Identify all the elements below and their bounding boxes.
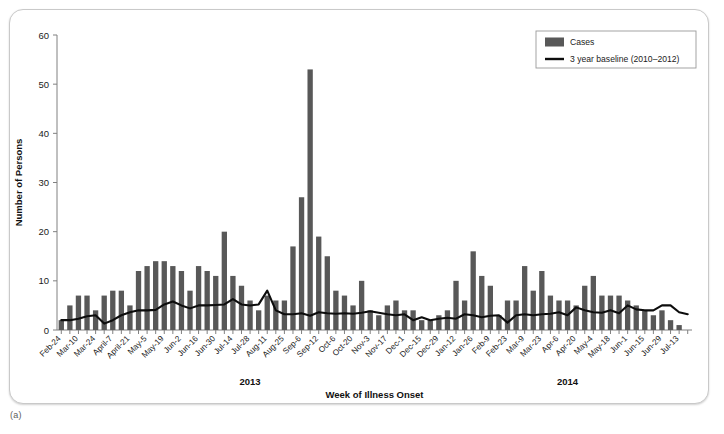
x-tick-label: Jul-13	[658, 334, 680, 356]
x-axis-title: Week of Illness Onset	[325, 389, 424, 400]
bar	[256, 310, 261, 330]
bar	[239, 286, 244, 330]
bar	[179, 271, 184, 330]
bar	[325, 256, 330, 330]
plot-area: 0102030405060Number of PersonsFeb-24Mar-…	[13, 30, 692, 401]
y-tick-label: 60	[38, 30, 49, 41]
bar	[187, 291, 192, 330]
bar	[350, 305, 355, 330]
y-tick-label: 50	[38, 79, 49, 90]
y-tick-label: 0	[44, 325, 49, 336]
bar	[84, 296, 89, 330]
bar	[67, 305, 72, 330]
y-tick-label: 40	[38, 128, 49, 139]
bar	[651, 315, 656, 330]
bar	[445, 310, 450, 330]
chart-legend: Cases3 year baseline (2010–2012)	[536, 31, 696, 68]
bar	[265, 296, 270, 330]
bar	[556, 301, 561, 331]
bar	[428, 320, 433, 330]
bar	[471, 251, 476, 330]
bar	[102, 296, 107, 330]
bar	[582, 286, 587, 330]
bar	[299, 197, 304, 330]
bar	[479, 276, 484, 330]
bar	[385, 305, 390, 330]
bar	[110, 291, 115, 330]
bar	[522, 266, 527, 330]
bar	[668, 320, 673, 330]
bar	[93, 310, 98, 330]
bar	[205, 271, 210, 330]
bar	[76, 296, 81, 330]
bar	[419, 320, 424, 330]
bar	[642, 310, 647, 330]
bar	[531, 291, 536, 330]
epidemic-curve-chart: 0102030405060Number of PersonsFeb-24Mar-…	[0, 0, 724, 434]
bar	[376, 315, 381, 330]
y-tick-label: 30	[38, 177, 49, 188]
bar	[307, 69, 312, 330]
y-tick-label: 10	[38, 275, 49, 286]
x-tick-labels-group: Feb-24Mar-10Mar-24April-7April-21May-5Ma…	[38, 334, 681, 361]
year-group-label: 2013	[240, 376, 261, 387]
bar	[290, 246, 295, 330]
bar	[333, 291, 338, 330]
bar	[591, 276, 596, 330]
bar	[127, 305, 132, 330]
bar	[368, 310, 373, 330]
bar	[170, 266, 175, 330]
bar	[453, 281, 458, 330]
bar	[162, 261, 167, 330]
bar	[359, 281, 364, 330]
bar	[488, 286, 493, 330]
y-axis-title: Number of Persons	[13, 139, 24, 227]
legend-swatch-cases	[545, 38, 564, 47]
bar	[608, 296, 613, 330]
bar	[59, 320, 64, 330]
bar	[196, 266, 201, 330]
bar	[539, 271, 544, 330]
year-group-label: 2014	[557, 376, 579, 387]
bar	[316, 237, 321, 330]
bar	[119, 291, 124, 330]
legend-item-label: Cases	[570, 37, 594, 47]
legend-item-label: 3 year baseline (2010–2012)	[570, 54, 680, 64]
x-tick-label: Oct-20	[331, 334, 355, 358]
bar	[659, 310, 664, 330]
bars-group	[59, 69, 682, 330]
bar	[230, 276, 235, 330]
bar	[144, 266, 149, 330]
bar	[136, 271, 141, 330]
bar	[505, 301, 510, 331]
x-tick-label: Apr-20	[554, 334, 578, 358]
bar	[213, 276, 218, 330]
bar	[153, 261, 158, 330]
bar	[222, 232, 227, 330]
bar	[676, 325, 681, 330]
y-tick-label: 20	[38, 226, 49, 237]
x-ticks-group	[61, 330, 687, 334]
